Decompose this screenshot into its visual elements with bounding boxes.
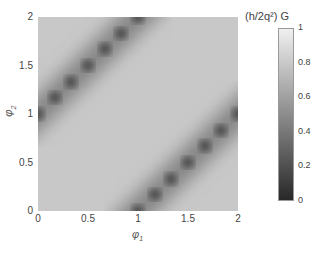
y-axis-label: φ2	[2, 106, 16, 117]
dark-spot-lower	[199, 140, 211, 152]
y-tick-label: 2	[11, 11, 33, 22]
colorbar-tick-label: 0.6	[298, 91, 311, 101]
dark-spot-lower	[149, 189, 161, 201]
x-axis-label: φ1	[132, 228, 143, 242]
dark-spot-upper	[115, 27, 127, 39]
colorbar	[278, 28, 294, 201]
dark-spot-upper	[65, 76, 77, 88]
dark-spot-lower	[182, 157, 194, 169]
dark-spot-upper	[99, 43, 111, 55]
colorbar-tick-label: 0.4	[298, 126, 311, 136]
heatmap-plot-area	[38, 17, 238, 211]
colorbar-tick-label: 1	[298, 22, 303, 32]
dark-spot-lower	[215, 124, 227, 136]
x-tick-label: 0	[26, 213, 50, 224]
heatmap-image	[38, 17, 238, 211]
colorbar-tick-label: 0.8	[298, 57, 311, 67]
colorbar-title: (h/2q²) G	[245, 10, 289, 22]
dark-spot-upper	[49, 92, 61, 104]
x-tick-label: 1.5	[176, 213, 200, 224]
dark-spot-lower	[165, 173, 177, 185]
y-tick-label: 1.5	[11, 60, 33, 71]
dark-spot-upper	[82, 60, 94, 72]
x-tick-label: 2	[226, 213, 250, 224]
y-axis-label-symbol: φ	[2, 109, 14, 116]
y-axis-label-subscript: 2	[10, 106, 17, 110]
x-tick-label: 0.5	[76, 213, 100, 224]
colorbar-tick-label: 0	[298, 195, 303, 205]
y-tick-label: 0.5	[11, 157, 33, 168]
x-axis-label-subscript: 1	[139, 235, 143, 242]
x-tick-label: 1	[126, 213, 150, 224]
colorbar-tick-label: 0.2	[298, 160, 311, 170]
